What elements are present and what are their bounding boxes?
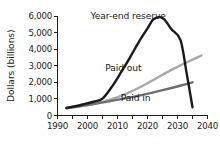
series-label-year-end-reserve: Year-end reserve bbox=[90, 10, 167, 21]
y-axis-tick-label: 2,000 bbox=[28, 77, 52, 87]
x-axis-tick-label: 2010 bbox=[107, 121, 128, 131]
series-label-paid-out: Paid out bbox=[105, 62, 142, 73]
x-axis-tick-label: 2020 bbox=[137, 121, 158, 131]
y-axis-tick-label: 0 bbox=[47, 111, 52, 121]
x-axis-tick-label: 2030 bbox=[167, 121, 188, 131]
series-label-paid-in: Paid in bbox=[121, 92, 151, 103]
x-axis-tick-label: 2040 bbox=[197, 121, 218, 131]
y-axis-tick-label: 3,000 bbox=[28, 61, 52, 71]
line-chart: 01,0002,0003,0004,0005,0006,000199020002… bbox=[0, 0, 220, 144]
x-axis-tick-label: 2000 bbox=[77, 121, 98, 131]
y-axis-tick-label: 6,000 bbox=[28, 11, 52, 21]
y-axis-tick-label: 1,000 bbox=[28, 94, 52, 104]
y-axis-tick-label: 4,000 bbox=[28, 44, 52, 54]
chart-figure: 01,0002,0003,0004,0005,0006,000199020002… bbox=[0, 0, 220, 144]
y-axis-tick-label: 5,000 bbox=[28, 28, 52, 38]
x-axis-tick-label: 1990 bbox=[47, 121, 68, 131]
y-axis-title: Dollars (billions) bbox=[5, 29, 16, 102]
